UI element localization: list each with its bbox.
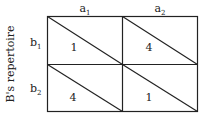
payoff-grid bbox=[0, 0, 208, 119]
cell-b2-a2-value: 1 bbox=[139, 91, 159, 104]
cell-b1-a2-value: 4 bbox=[139, 41, 159, 54]
cell-b1-a1-value: 1 bbox=[64, 41, 84, 54]
cell-b2-a1-value: 4 bbox=[63, 91, 83, 104]
